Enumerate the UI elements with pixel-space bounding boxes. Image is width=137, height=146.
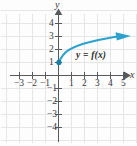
y-tick-label-2: 2 bbox=[49, 45, 54, 55]
x-tick-label-4: 4 bbox=[108, 79, 113, 89]
x-tick-label-3: 3 bbox=[95, 79, 100, 89]
y-tick-label-1: 1 bbox=[49, 58, 54, 68]
graph-canvas bbox=[0, 0, 137, 146]
x-tick-label-2: 2 bbox=[82, 79, 87, 89]
y-tick-label-3: 3 bbox=[49, 32, 54, 42]
figure-background bbox=[0, 0, 137, 146]
y-tick-label--3: −3 bbox=[47, 110, 57, 120]
y-tick-label--2: −2 bbox=[47, 97, 57, 107]
y-tick-label-4: 4 bbox=[49, 19, 54, 29]
function-graph-figure: −3 −2 −1 1 2 3 4 5 4 3 2 1 −1 −2 −3 −4 y… bbox=[0, 0, 137, 146]
y-tick-label--4: −4 bbox=[47, 123, 57, 133]
y-axis-label: y bbox=[55, 0, 59, 10]
x-axis-label: x bbox=[130, 70, 134, 80]
x-tick-label--3: −3 bbox=[14, 79, 24, 89]
x-tick-label--2: −2 bbox=[27, 79, 37, 89]
x-tick-label-1: 1 bbox=[69, 79, 74, 89]
y-tick-label--1: −1 bbox=[47, 84, 57, 94]
x-tick-label-5: 5 bbox=[121, 79, 126, 89]
curve-start-point-marker bbox=[56, 60, 61, 65]
curve-equation-label: y = f(x) bbox=[76, 51, 106, 61]
